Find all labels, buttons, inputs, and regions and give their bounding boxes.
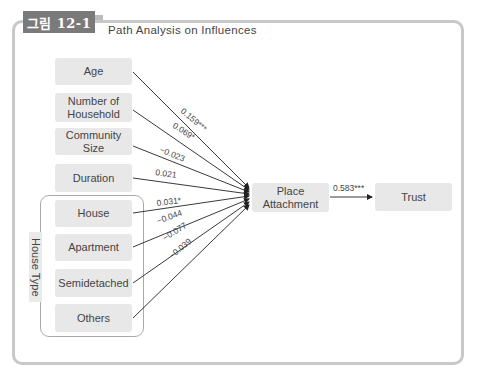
coef-duration: 0.021: [155, 167, 178, 180]
path-others: [133, 205, 249, 318]
figure-title: Path Analysis on Influences: [108, 24, 261, 36]
path-community-size: [133, 146, 249, 192]
figure-number-tab: 그림 12-1: [23, 11, 95, 33]
coef-community-size: −0.023: [158, 145, 186, 164]
path-house: [133, 196, 249, 213]
coef-place-attachment-trust: 0.583***: [333, 183, 365, 193]
path-apartment: [133, 199, 249, 247]
house-type-group-label: House Type: [29, 232, 42, 302]
path-duration: [133, 178, 249, 194]
path-arrows: 0.159*** 0.069* −0.023 0.021 0.031* −0.0…: [0, 0, 477, 374]
house-type-label-text: House Type: [30, 238, 42, 297]
